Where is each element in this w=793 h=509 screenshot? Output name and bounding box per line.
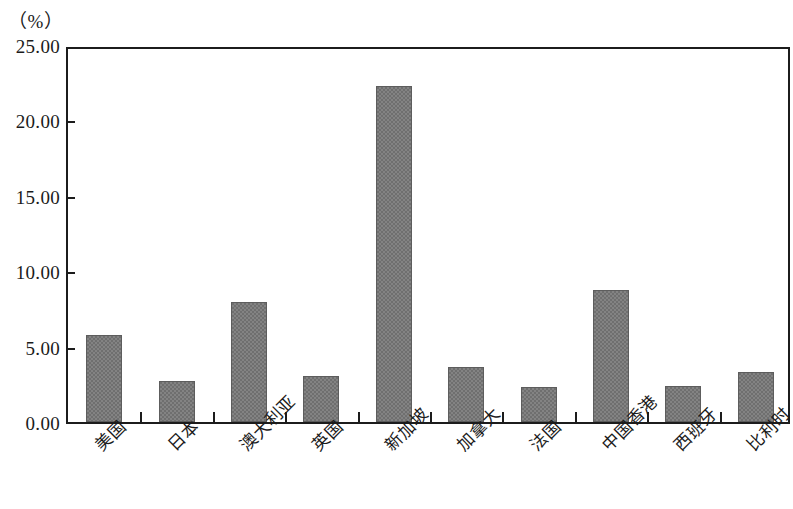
y-axis-tick-label: 15.00 (16, 187, 60, 209)
y-axis-unit-label: （%） (8, 6, 63, 33)
bar-chart-figure: （%） 25.0020.0015.0010.005.000.00 美国日本澳大利… (0, 0, 793, 509)
y-axis-tick-label: 10.00 (16, 262, 60, 284)
x-axis-tick-mark (575, 412, 577, 422)
y-axis-tick-label: 0.00 (26, 413, 60, 435)
y-axis-tick-mark (66, 121, 75, 123)
y-axis-tick-mark (66, 197, 75, 199)
x-axis-tick-mark (358, 412, 360, 422)
bar (86, 335, 122, 422)
y-axis: 25.0020.0015.0010.005.000.00 (0, 47, 60, 424)
plot-area (66, 47, 790, 424)
bar (303, 376, 339, 422)
bar (231, 302, 267, 422)
x-axis: 美国日本澳大利亚英国新加坡加拿大法国中国香港西班牙比利时 (66, 424, 790, 509)
y-axis-tick-label: 25.00 (16, 36, 60, 58)
x-axis-tick-mark (213, 412, 215, 422)
bar (376, 86, 412, 422)
y-axis-tick-label: 5.00 (26, 338, 60, 360)
y-axis-tick-mark (66, 348, 75, 350)
bar (593, 290, 629, 422)
x-axis-tick-mark (140, 412, 142, 422)
plot-inner (68, 49, 788, 422)
y-axis-tick-mark (66, 272, 75, 274)
y-axis-tick-label: 20.00 (16, 111, 60, 133)
